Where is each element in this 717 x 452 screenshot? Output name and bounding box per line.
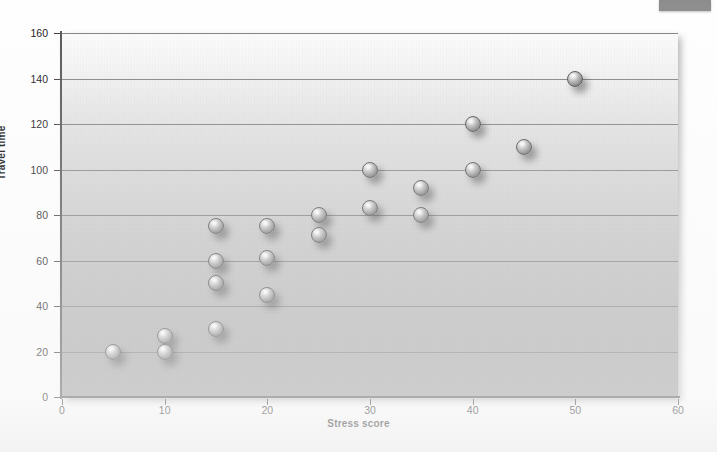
y-tick-mark-20 xyxy=(54,352,60,353)
y-tick-mark-100 xyxy=(54,170,60,171)
data-point xyxy=(362,200,378,216)
y-axis-title: Travel time xyxy=(0,126,7,180)
y-tick-label-100: 100 xyxy=(14,165,48,176)
y-tick-label-20: 20 xyxy=(14,347,48,358)
y-tick-mark-40 xyxy=(54,306,60,307)
data-point xyxy=(208,253,224,269)
x-tick-label-40: 40 xyxy=(467,405,479,416)
data-point xyxy=(157,344,173,360)
y-tick-mark-160 xyxy=(54,33,60,34)
y-tick-mark-60 xyxy=(54,261,60,262)
data-point xyxy=(362,162,378,178)
y-tick-label-160: 160 xyxy=(14,28,48,39)
x-tick-label-10: 10 xyxy=(159,405,171,416)
x-tick-label-50: 50 xyxy=(569,405,581,416)
y-tick-mark-80 xyxy=(54,215,60,216)
data-point xyxy=(157,328,173,344)
data-point xyxy=(105,344,121,360)
y-tick-label-60: 60 xyxy=(14,256,48,267)
page-tab-artifact xyxy=(659,0,711,11)
data-point xyxy=(413,180,429,196)
y-axis-line xyxy=(60,31,62,399)
scatter-plot-area xyxy=(62,33,678,397)
data-point xyxy=(208,218,224,234)
data-point xyxy=(259,218,275,234)
data-point xyxy=(208,321,224,337)
y-tick-label-40: 40 xyxy=(14,301,48,312)
x-tick-label-30: 30 xyxy=(364,405,376,416)
data-point xyxy=(465,116,481,132)
data-point xyxy=(413,207,429,223)
y-tick-mark-140 xyxy=(54,79,60,80)
data-point xyxy=(465,162,481,178)
x-axis-title: Stress score xyxy=(0,418,717,429)
y-tick-mark-120 xyxy=(54,124,60,125)
y-tick-label-0: 0 xyxy=(14,392,48,403)
data-point xyxy=(208,275,224,291)
data-point xyxy=(259,287,275,303)
x-axis-line xyxy=(60,396,680,398)
data-point xyxy=(311,207,327,223)
y-tick-label-80: 80 xyxy=(14,210,48,221)
y-tick-mark-0 xyxy=(54,397,60,398)
data-point xyxy=(311,227,327,243)
y-tick-label-140: 140 xyxy=(14,74,48,85)
x-tick-label-20: 20 xyxy=(261,405,273,416)
y-tick-label-120: 120 xyxy=(14,119,48,130)
data-point xyxy=(259,250,275,266)
data-point xyxy=(516,139,532,155)
x-tick-label-60: 60 xyxy=(672,405,684,416)
data-point xyxy=(567,71,583,87)
figure-page: 020406080100120140160 0102030405060 Stre… xyxy=(0,0,717,452)
data-point-layer xyxy=(62,33,678,397)
x-tick-label-0: 0 xyxy=(59,405,65,416)
